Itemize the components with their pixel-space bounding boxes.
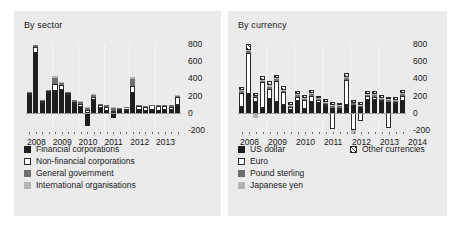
bar-segment-hatch: [344, 73, 350, 77]
x-tick-label-2011: 2011: [324, 137, 342, 147]
bar-segment-mid: [386, 100, 392, 102]
bar-segment-light: [379, 98, 385, 99]
zero-axis-line: [26, 113, 181, 114]
bar-segment-dark: [59, 90, 64, 113]
x-tick-mark: [291, 132, 292, 134]
panel-title-by-sector: By sector: [24, 20, 62, 30]
bar-segment-white: [365, 96, 371, 99]
x-tick-mark: [312, 132, 313, 134]
bar-segment-white: [27, 93, 32, 95]
bar-segment-hatch: [365, 91, 371, 94]
bar-segment-dark: [85, 113, 90, 126]
bar-segment-dark: [40, 102, 45, 112]
bar-segment-light: [358, 105, 364, 106]
x-tick-label-2012: 2012: [130, 137, 149, 147]
bar-segment-mid: [98, 104, 103, 105]
bar-2008Q3: [253, 44, 259, 130]
bar-segment-dark: [33, 53, 38, 113]
bar-segment-dark: [393, 104, 399, 113]
bar-segment-dark: [316, 103, 322, 113]
x-tick-mark: [107, 132, 108, 134]
y-tick-label: -200: [188, 125, 205, 135]
bar-segment-white: [52, 84, 57, 92]
bar-segment-white: [239, 93, 245, 107]
bar-segment-dark: [386, 102, 392, 113]
x-tick-mark: [62, 132, 63, 134]
bar-segment-mid: [59, 83, 64, 85]
bar-segment-white: [351, 113, 357, 131]
y-tick-label: 0: [188, 108, 193, 118]
bar-2011Q1: [323, 44, 329, 130]
x-tick-mark: [382, 132, 383, 134]
bar-2011Q3: [117, 44, 122, 130]
x-tick-mark: [284, 132, 285, 134]
bar-segment-white: [281, 92, 287, 106]
legend-swatch-icon: [24, 146, 31, 153]
x-tick-mark: [68, 132, 69, 134]
bar-segment-white: [143, 107, 148, 111]
bar-segment-mid: [136, 105, 141, 106]
y-tick-label: 400: [188, 73, 202, 83]
bar-segment-dark: [91, 100, 96, 112]
bar-segment-mid: [393, 101, 399, 102]
bar-2013Q1: [379, 44, 385, 130]
bar-segment-dark: [175, 105, 180, 112]
bar-2009Q2: [59, 44, 64, 130]
x-tick-mark: [298, 132, 299, 134]
bar-2012Q4: [149, 44, 154, 130]
bar-segment-white: [104, 107, 109, 111]
x-tick-mark: [152, 132, 153, 134]
bar-segment-hatch: [358, 102, 364, 105]
bar-segment-mid: [27, 92, 32, 93]
bar-segment-hatch: [267, 81, 273, 86]
bar-segment-light: [372, 94, 378, 95]
bar-segment-hatch: [288, 102, 294, 105]
bar-segment-mid: [111, 108, 116, 111]
y-tick-label: 800: [413, 39, 427, 49]
bar-segment-light: [295, 94, 301, 95]
bar-segment-white: [379, 100, 385, 102]
bar-segment-dark: [309, 102, 315, 113]
bar-segment-white: [309, 96, 315, 102]
bar-2011Q1: [104, 44, 109, 130]
bar-2010Q1: [78, 44, 83, 130]
bar-segment-hatch: [337, 103, 343, 106]
bar-2012Q2: [358, 44, 364, 130]
bar-segment-light: [386, 99, 392, 100]
bar-2009Q3: [281, 44, 287, 130]
x-tick-mark: [319, 132, 320, 134]
bar-2013Q4: [175, 44, 180, 130]
panel-by-sector: By sector -2000200400600800 200820092010…: [14, 11, 221, 216]
bar-segment-mid: [72, 100, 77, 102]
bar-segment-white: [78, 104, 83, 107]
bar-segment-dark: [365, 100, 371, 113]
legend-item-label: General government: [36, 168, 114, 178]
bar-segment-hatch: [274, 75, 280, 78]
bar-segment-light: [323, 102, 329, 103]
bar-segment-mid: [365, 95, 371, 97]
x-tick-mark: [133, 132, 134, 134]
x-tick-mark: [389, 132, 390, 134]
bar-segment-dark: [130, 93, 135, 113]
bar-segment-white: [117, 109, 122, 111]
bar-segment-light: [288, 105, 294, 106]
bar-segment-hatch: [372, 91, 378, 94]
bar-segment-mid: [117, 108, 122, 109]
bar-segment-white: [386, 113, 392, 128]
bar-2011Q2: [330, 44, 336, 130]
x-tick-mark: [145, 132, 146, 134]
y-tick-label: 600: [413, 56, 427, 66]
bar-segment-mid: [246, 50, 252, 52]
bar-2008Q2: [246, 44, 252, 130]
x-tick-mark: [178, 132, 179, 134]
bar-segment-mid: [65, 92, 70, 93]
bar-segment-mid: [344, 78, 350, 80]
bar-segment-dark: [65, 94, 70, 112]
bar-2010Q2: [85, 44, 90, 130]
x-tick-mark: [249, 132, 250, 134]
bar-segment-light: [330, 105, 336, 106]
bar-segment-dark: [344, 105, 350, 112]
bar-segment-hatch: [316, 96, 322, 99]
bar-segment-mid: [33, 45, 38, 47]
bar-segment-dark: [246, 94, 252, 112]
